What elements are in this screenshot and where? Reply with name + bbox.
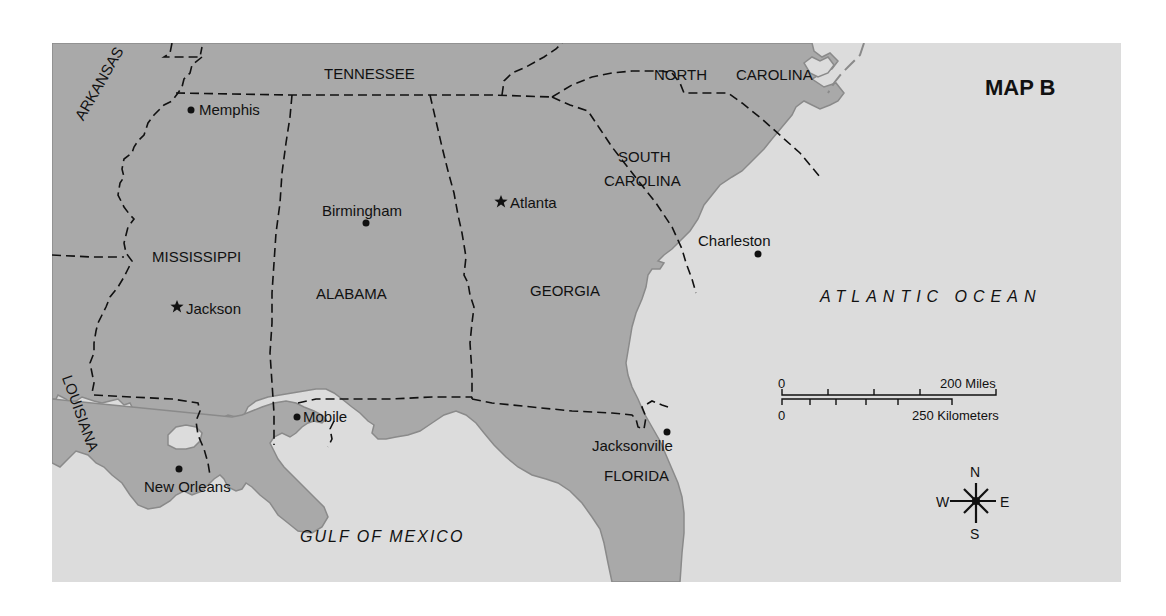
city-label-new-orleans: New Orleans: [144, 479, 231, 494]
city-label-atlanta: Atlanta: [510, 195, 557, 210]
scale-bar: [782, 389, 996, 405]
birmingham-dot: [363, 220, 370, 227]
jacksonville-dot: [664, 429, 671, 436]
city-label-birmingham: Birmingham: [322, 203, 402, 218]
charleston-dot: [755, 251, 762, 258]
compass-west: W: [936, 495, 949, 509]
state-label-florida: FLORIDA: [604, 468, 669, 483]
mississippi-delta: [52, 399, 328, 533]
city-label-jacksonville: Jacksonville: [592, 438, 673, 453]
compass-east: E: [1000, 495, 1009, 509]
water-label-atlantic: ATLANTIC OCEAN: [820, 289, 1042, 305]
city-label-jackson: Jackson: [186, 301, 241, 316]
compass-south: S: [970, 527, 979, 541]
scale-km-zero: 0: [778, 409, 785, 422]
mobile-dot: [294, 414, 301, 421]
state-label-alabama: ALABAMA: [316, 286, 387, 301]
compass-north: N: [970, 465, 980, 479]
city-label-charleston: Charleston: [698, 233, 771, 248]
state-label-georgia: GEORGIA: [530, 283, 600, 298]
state-label-north-carolina-2: CAROLINA: [736, 67, 813, 82]
state-label-tennessee: TENNESSEE: [324, 66, 415, 81]
new-orleans-dot: [176, 466, 183, 473]
compass-rose: [950, 483, 996, 523]
scale-miles-zero: 0: [778, 377, 785, 390]
memphis-dot: [188, 107, 195, 114]
city-label-mobile: Mobile: [303, 409, 347, 424]
scale-km-max: 250 Kilometers: [912, 409, 999, 422]
city-label-memphis: Memphis: [199, 102, 260, 117]
scale-miles-max: 200 Miles: [940, 377, 996, 390]
map-b: MAP B TENNESSEE NORTH CAROLINA SOUTH CAR…: [52, 43, 1121, 582]
state-label-north-carolina-1: NORTH: [654, 67, 707, 82]
state-label-south-carolina-1: SOUTH: [618, 149, 671, 164]
water-label-gulf: GULF OF MEXICO: [300, 529, 464, 545]
state-label-south-carolina-2: CAROLINA: [604, 173, 681, 188]
map-title: MAP B: [985, 77, 1056, 99]
state-label-mississippi: MISSISSIPPI: [152, 249, 241, 264]
